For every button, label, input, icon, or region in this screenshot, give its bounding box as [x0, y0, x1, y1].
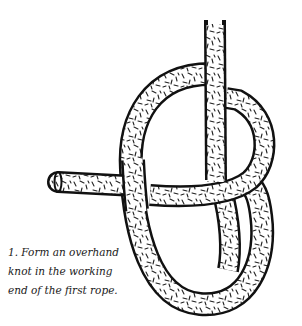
- rope-end-tip-right: [222, 20, 226, 25]
- caption-line-2: knot in the working: [8, 262, 148, 281]
- rope-end-tip-left: [204, 20, 208, 25]
- caption-line-3: end of the first rope.: [8, 281, 148, 300]
- rope-loop-left-overlay: [133, 158, 137, 212]
- step-caption: 1. Form an overhand knot in the working …: [8, 243, 148, 300]
- caption-line-1: 1. Form an overhand: [8, 243, 148, 262]
- rope-working-end: [204, 20, 226, 182]
